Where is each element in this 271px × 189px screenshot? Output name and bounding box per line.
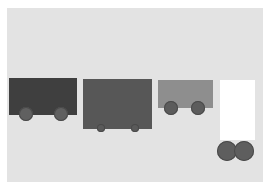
cart-3-wheel-front-icon (164, 101, 178, 115)
cart-2-wheel-rear-icon (131, 124, 139, 132)
cart-1[interactable] (9, 78, 79, 124)
cart-1-wheel-front-icon (19, 107, 33, 121)
cart-4-wheel-rear-icon (234, 141, 254, 161)
game-stage (7, 8, 263, 182)
cart-2-body (83, 79, 152, 129)
cart-3[interactable] (158, 80, 214, 120)
cart-3-wheel-rear-icon (191, 101, 205, 115)
cart-2[interactable] (83, 79, 153, 134)
cart-4[interactable] (219, 80, 259, 172)
cart-1-wheel-rear-icon (54, 107, 68, 121)
cart-4-body (220, 80, 255, 140)
cart-2-wheel-front-icon (97, 124, 105, 132)
